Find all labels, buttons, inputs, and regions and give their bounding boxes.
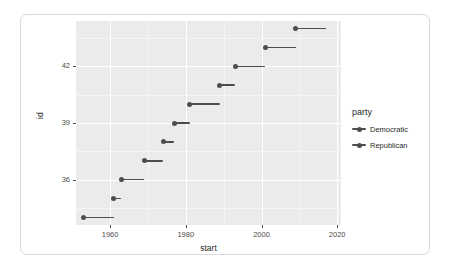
term-segment <box>265 47 295 49</box>
data-point <box>187 102 192 107</box>
legend-key-icon <box>351 123 367 135</box>
y-axis-tick-mark <box>73 123 76 124</box>
gridline-minor-horizontal <box>76 95 341 96</box>
data-point <box>172 121 177 126</box>
term-segment <box>84 217 114 219</box>
legend-key-icon <box>351 139 367 151</box>
legend: party DemocraticRepublican <box>351 107 429 154</box>
y-axis-tick-mark <box>73 66 76 67</box>
x-axis-title: start <box>76 243 341 253</box>
data-point <box>293 26 298 31</box>
x-axis-tick-mark <box>186 225 187 228</box>
gridline-horizontal <box>76 66 341 67</box>
y-axis-tick-label: 42 <box>62 62 70 70</box>
plot-panel <box>76 21 341 225</box>
gridline-minor-horizontal <box>76 38 341 39</box>
y-axis-title: id <box>35 112 45 119</box>
x-axis-tick-label: 2020 <box>317 231 357 239</box>
x-axis-tick-mark <box>262 225 263 228</box>
term-segment <box>144 160 163 162</box>
x-axis-tick-mark <box>110 225 111 228</box>
data-point <box>142 158 147 163</box>
gridline-minor-horizontal <box>76 208 341 209</box>
term-segment <box>220 84 235 86</box>
legend-item-label: Democratic <box>370 125 408 134</box>
data-point <box>161 139 166 144</box>
data-point <box>119 177 124 182</box>
chart-card: id start party DemocraticRepublican 3639… <box>20 14 430 255</box>
data-point <box>111 196 116 201</box>
y-axis-tick-label: 39 <box>62 119 70 127</box>
screenshot-root: id start party DemocraticRepublican 3639… <box>0 0 453 269</box>
data-point <box>263 45 268 50</box>
ggplot-figure: id start party DemocraticRepublican 3639… <box>21 15 431 256</box>
x-axis-tick-label: 2000 <box>242 231 282 239</box>
data-point <box>233 64 238 69</box>
legend-item[interactable]: Republican <box>351 138 429 152</box>
legend-title: party <box>352 107 429 117</box>
legend-item[interactable]: Democratic <box>351 122 429 136</box>
gridline-horizontal <box>76 180 341 181</box>
x-axis-tick-label: 1980 <box>166 231 206 239</box>
y-axis-tick-label: 36 <box>62 176 70 184</box>
data-point <box>217 83 222 88</box>
gridline-horizontal <box>76 123 341 124</box>
data-point <box>81 215 86 220</box>
term-segment <box>235 66 265 68</box>
term-segment <box>190 103 220 105</box>
x-axis-tick-label: 1960 <box>90 231 130 239</box>
gridline-minor-horizontal <box>76 151 341 152</box>
y-axis-tick-mark <box>73 180 76 181</box>
legend-item-label: Republican <box>370 141 408 150</box>
x-axis-tick-mark <box>337 225 338 228</box>
legend-items: DemocraticRepublican <box>351 122 429 152</box>
